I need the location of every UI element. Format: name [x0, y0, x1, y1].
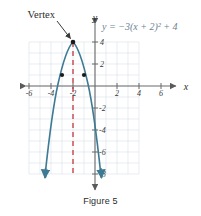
- x-tick-label: -4: [48, 89, 55, 98]
- x-tick-label: -6: [26, 89, 33, 98]
- y-tick-label: 2: [100, 60, 104, 69]
- grid-lines: [29, 42, 139, 174]
- x-tick-labels: -6 -4 -2 2 4 6: [26, 89, 163, 98]
- graph-canvas: -6 -4 -2 2 4 6 4 2 -2 -4 -6 -8: [0, 0, 201, 216]
- x-tick-label: 2: [115, 89, 119, 98]
- y-axis-label: y: [92, 12, 98, 23]
- vertex-leader-line: [57, 21, 71, 39]
- point-left: [60, 73, 64, 77]
- y-tick-label: 4: [100, 38, 104, 47]
- vertex-label: Vertex: [28, 9, 56, 20]
- figure-container: -6 -4 -2 2 4 6 4 2 -2 -4 -6 -8: [0, 0, 201, 216]
- y-tick-label: -2: [99, 104, 106, 113]
- point-right: [82, 73, 86, 77]
- y-tick-label: -4: [99, 126, 106, 135]
- point-vertex: [71, 40, 76, 45]
- x-tick-label: 6: [159, 89, 163, 98]
- y-tick-label: -6: [99, 148, 106, 157]
- y-tick-labels: 4 2 -2 -4 -6 -8: [99, 38, 106, 179]
- figure-caption: Figure 5: [0, 196, 201, 206]
- x-tick-label: 4: [137, 89, 141, 98]
- equation-label: y = −3(x + 2)² + 4: [101, 21, 178, 33]
- x-axis-label: x: [183, 81, 189, 92]
